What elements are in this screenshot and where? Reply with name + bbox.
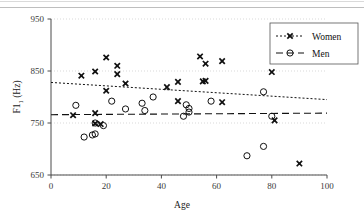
y-axis-tick-labels: 650750850950: [31, 14, 45, 180]
legend-label-women: Women: [312, 32, 342, 42]
legend-label-men: Men: [312, 49, 330, 59]
data-point-women: [297, 161, 302, 166]
x-tick-label: 40: [157, 181, 167, 191]
y-axis-title-main: F1: [12, 103, 22, 113]
data-point-men: [260, 143, 266, 149]
x-axis-ticks: [51, 175, 327, 179]
y-tick-label: 650: [31, 170, 45, 180]
data-point-women: [104, 88, 109, 93]
data-point-women: [104, 55, 109, 60]
data-point-women: [175, 98, 180, 103]
data-point-women: [70, 113, 75, 118]
data-point-men: [139, 100, 145, 106]
data-point-women: [92, 121, 97, 126]
trendline-women: [51, 82, 327, 99]
x-tick-label: 80: [267, 181, 277, 191]
data-point-women: [92, 110, 97, 115]
data-points-men: [73, 89, 275, 159]
data-point-women: [164, 84, 169, 89]
y-axis-ticks: [48, 19, 52, 175]
data-point-men: [122, 106, 128, 112]
x-tick-label: 100: [320, 181, 334, 191]
y-tick-label: 950: [31, 14, 45, 24]
data-point-women: [123, 81, 128, 86]
data-point-women: [219, 100, 224, 105]
data-point-men: [142, 107, 148, 113]
x-tick-label: 60: [212, 181, 222, 191]
data-point-women: [115, 63, 120, 68]
chart-figure: 020406080100 650750850950 Age F11 (Hz) W…: [0, 0, 364, 214]
scatter-plot-svg: 020406080100 650750850950 Age F11 (Hz) W…: [0, 0, 364, 214]
data-point-women: [115, 71, 120, 76]
data-point-women: [203, 61, 208, 66]
y-tick-label: 750: [31, 118, 45, 128]
y-tick-label: 850: [31, 66, 45, 76]
data-point-men: [109, 98, 115, 104]
x-tick-label: 20: [102, 181, 112, 191]
data-point-women: [269, 69, 274, 74]
data-point-men: [208, 98, 214, 104]
data-point-men: [260, 89, 266, 95]
legend[interactable]: Women Men: [270, 23, 358, 64]
data-point-women: [175, 79, 180, 84]
data-point-women: [79, 73, 84, 78]
data-point-men: [73, 102, 79, 108]
data-point-women: [197, 54, 202, 59]
svg-text:F11 (Hz): F11 (Hz): [12, 80, 24, 113]
y-axis-title: F11 (Hz): [12, 80, 24, 113]
x-axis-title: Age: [174, 200, 190, 210]
data-point-men: [150, 94, 156, 100]
y-axis-title-unit: (Hz): [12, 80, 23, 100]
data-point-women: [92, 69, 97, 74]
x-tick-label: 0: [49, 181, 54, 191]
data-point-women: [219, 58, 224, 63]
trendline-men: [51, 113, 327, 115]
data-point-men: [81, 134, 87, 140]
data-point-men: [244, 153, 250, 159]
x-axis-tick-labels: 020406080100: [49, 181, 335, 191]
